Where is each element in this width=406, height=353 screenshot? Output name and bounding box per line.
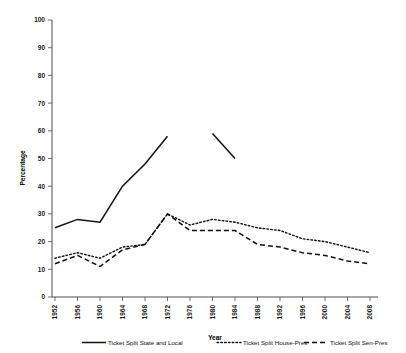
y-tick-label: 100 xyxy=(34,16,45,23)
legend-item[interactable]: Ticket Split State and Local xyxy=(82,339,183,346)
x-tick-label: 1988 xyxy=(254,305,261,320)
legend-label: Ticket Split State and Local xyxy=(108,339,183,346)
y-tick-label: 10 xyxy=(38,266,46,273)
x-tick-label: 1992 xyxy=(276,305,283,320)
chart-legend: Ticket Split State and LocalTicket Split… xyxy=(82,339,388,346)
line-chart: Percentage 0102030405060708090100 195219… xyxy=(0,0,406,353)
x-axis-title: Year xyxy=(208,334,222,341)
legend-item[interactable]: Ticket Split House-Pres xyxy=(217,339,307,346)
chart-canvas: Percentage 0102030405060708090100 195219… xyxy=(0,0,406,353)
x-tick-label: 1976 xyxy=(186,305,193,320)
y-axis-title: Percentage xyxy=(19,150,27,185)
series-line xyxy=(55,214,370,267)
legend-label: Ticket Split Sen-Pres xyxy=(330,339,388,346)
y-tick-label: 40 xyxy=(38,183,46,190)
series-line xyxy=(55,214,370,258)
y-tick-label: 0 xyxy=(41,293,45,300)
y-tick-label: 50 xyxy=(38,155,46,162)
y-tick-label: 90 xyxy=(38,44,46,51)
x-tick-label: 1960 xyxy=(96,305,103,320)
x-tick-label: 2004 xyxy=(344,305,351,320)
y-axis-ticks: 0102030405060708090100 xyxy=(34,16,52,300)
x-tick-label: 1980 xyxy=(209,305,216,320)
legend-label: Ticket Split House-Pres xyxy=(243,339,307,346)
x-tick-label: 1956 xyxy=(74,305,81,320)
series-line xyxy=(55,136,168,228)
x-axis-ticks: 1952195619601964196819721976198019841988… xyxy=(51,297,373,319)
x-tick-label: 1964 xyxy=(119,305,126,320)
y-tick-label: 20 xyxy=(38,238,46,245)
x-tick-label: 1984 xyxy=(231,305,238,320)
y-tick-label: 70 xyxy=(38,100,46,107)
x-tick-label: 1972 xyxy=(164,305,171,320)
x-tick-label: 1996 xyxy=(299,305,306,320)
y-tick-label: 30 xyxy=(38,210,46,217)
y-tick-label: 80 xyxy=(38,72,46,79)
x-tick-label: 2000 xyxy=(321,305,328,320)
x-tick-label: 1952 xyxy=(51,305,58,320)
series-line xyxy=(213,134,236,159)
legend-item[interactable]: Ticket Split Sen-Pres xyxy=(304,339,388,346)
x-tick-label: 2008 xyxy=(366,305,373,320)
series-layer xyxy=(55,134,370,267)
y-tick-label: 60 xyxy=(38,127,46,134)
x-tick-label: 1968 xyxy=(141,305,148,320)
